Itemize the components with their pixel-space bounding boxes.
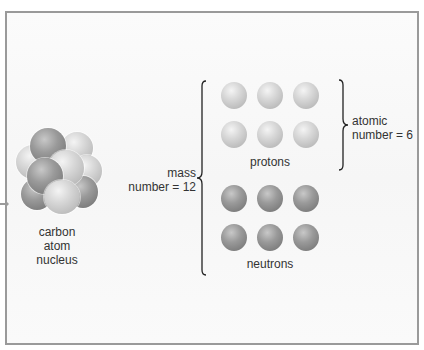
proton: [221, 121, 247, 148]
nucleus-label-line-1: carbon: [22, 225, 92, 239]
neutron: [257, 185, 283, 212]
neutron: [221, 224, 247, 251]
nucleus-label-line-2: atom: [22, 239, 92, 253]
neutron: [293, 224, 319, 251]
proton: [221, 82, 247, 109]
proton: [293, 121, 319, 148]
nucleus-label-line-3: nucleus: [22, 253, 92, 267]
neutron: [293, 185, 319, 212]
protons-label: protons: [240, 155, 300, 169]
neutron: [221, 185, 247, 212]
nucleus-proton: [44, 180, 80, 214]
proton: [257, 82, 283, 109]
atomic-number-line-2: number = 6: [352, 128, 413, 142]
atomic-number-line-1: atomic: [352, 114, 413, 128]
proton: [293, 82, 319, 109]
neutron: [257, 224, 283, 251]
nucleus-label: carbon atom nucleus: [22, 225, 92, 267]
mass-number-line-1: mass: [118, 166, 196, 180]
mass-number-brace: [196, 80, 208, 276]
mass-number-label: mass number = 12: [118, 166, 196, 194]
neutrons-label: neutrons: [240, 257, 300, 271]
proton: [257, 121, 283, 148]
mass-number-line-2: number = 12: [118, 180, 196, 194]
pointer-arrow-icon: [0, 203, 6, 205]
atomic-number-brace: [338, 79, 350, 171]
atomic-number-label: atomic number = 6: [352, 114, 413, 142]
